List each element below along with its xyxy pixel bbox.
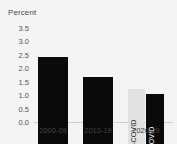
y-tick-label: 3.0 <box>5 37 29 46</box>
bar-2020-29-covid: COVID <box>146 94 164 144</box>
x-tick-label-2020-29: 2020-29 <box>124 126 168 135</box>
bar-chart: Percent 3.5 3.0 2.5 2.0 1.5 1.0 0.5 0.0 … <box>0 0 177 144</box>
y-tick-label: 0.0 <box>5 118 29 127</box>
y-tick-label: 0.5 <box>5 104 29 113</box>
y-tick-label: 2.0 <box>5 64 29 73</box>
x-tick-label-2010-19: 2010-19 <box>76 126 120 135</box>
x-tick-label-2000-09: 2000-09 <box>31 126 75 135</box>
bar-2020-29-pre-covid: Pre-COVID <box>128 89 145 144</box>
y-axis-tick-labels: 3.5 3.0 2.5 2.0 1.5 1.0 0.5 0.0 <box>3 0 29 144</box>
y-tick-label: 3.5 <box>5 24 29 33</box>
y-tick-label: 2.5 <box>5 50 29 59</box>
y-tick-label: 1.5 <box>5 77 29 86</box>
y-tick-label: 1.0 <box>5 91 29 100</box>
